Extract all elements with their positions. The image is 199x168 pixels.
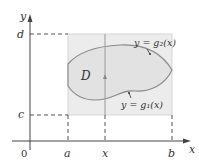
tick-label-a: a [64,147,71,160]
lower-curve-label: y = g₁(x) [120,99,163,110]
origin-label: 0 [21,148,27,159]
tick-label-c: c [18,108,24,121]
y-axis-label: y [19,10,27,23]
type-ii-region-diagram: y x 0 d c a x b D y = g₂(x) y = g₁(x) [0,0,199,168]
y-axis-arrow-icon [28,14,33,22]
tick-label-x: x [102,147,109,160]
x-axis-label: x [189,143,196,156]
tick-label-b: b [168,147,175,160]
tick-label-d: d [17,28,24,41]
upper-curve-label: y = g₂(x) [133,37,176,48]
region-label-d: D [80,69,91,83]
